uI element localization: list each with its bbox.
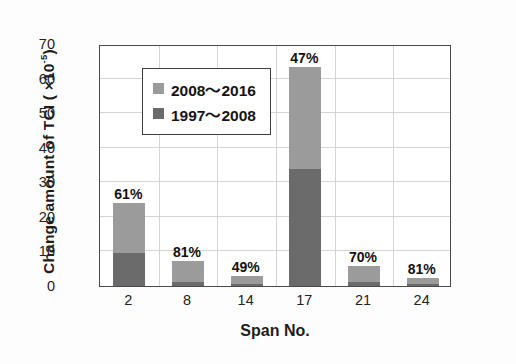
bar-segment-2008-2016 [348,266,380,282]
bar-percent-label: 81% [387,261,457,277]
bar-percent-label: 61% [93,186,163,202]
legend-item: 2008～2016 [153,76,256,101]
bar-stack [231,276,263,286]
bar-segment-2008-2016 [289,67,321,169]
bar-segment-1997-2008 [348,282,380,286]
bar-stack [113,203,145,286]
x-tick-label: 24 [392,292,452,308]
y-tick-label: 50 [15,106,55,121]
bar-segment-2008-2016 [231,276,263,284]
gridline-horizontal [100,147,450,148]
gridline-vertical [276,46,277,286]
bar-stack [348,266,380,286]
y-tick-label: 40 [15,141,55,156]
bar-percent-label: 47% [269,50,339,66]
legend-swatch-recent-icon [153,83,164,94]
gridline-horizontal [100,181,450,182]
bar-segment-1997-2008 [231,284,263,286]
bar-stack [407,278,439,286]
bar-percent-label: 49% [211,259,281,275]
legend-label-recent: 2008～2016 [171,78,256,100]
bar-segment-1997-2008 [113,253,145,286]
bar-segment-1997-2008 [407,284,439,286]
x-tick-label: 14 [216,292,276,308]
y-tick-label: 10 [15,244,55,259]
y-axis-exponent: -5 [38,55,49,64]
bar-stack [289,67,321,286]
legend-item: 1997～2008 [153,101,256,126]
chart-figure: Change amount of TCI ( ×10-5) 0102030405… [0,0,516,364]
y-tick-label: 0 [15,279,55,294]
bar-segment-2008-2016 [172,261,204,281]
bar-segment-2008-2016 [113,203,145,253]
x-tick-label: 2 [98,292,158,308]
legend-label-older: 1997～2008 [171,103,256,125]
bar-segment-1997-2008 [172,282,204,286]
bar-stack [172,261,204,286]
x-tick-label: 8 [157,292,217,308]
x-axis-title: Span No. [99,322,451,340]
x-tick-label: 21 [333,292,393,308]
gridline-horizontal [100,216,450,217]
y-tick-label: 70 [15,37,55,52]
legend-swatch-older-icon [153,108,164,119]
y-axis-title-text: Change amount of TCI ( ×10 [40,63,57,274]
y-tick-label: 60 [15,72,55,87]
x-tick-label: 17 [274,292,334,308]
y-tick-label: 20 [15,210,55,225]
chart-legend: 2008～2016 1997～2008 [142,68,271,135]
bar-segment-1997-2008 [289,169,321,286]
y-tick-label: 30 [15,175,55,190]
